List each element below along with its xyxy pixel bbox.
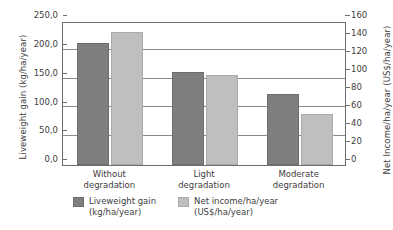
plot-area: 0,050,0100,0150,0200,0250,0 020406080100…	[62, 22, 346, 166]
y-tick-left-label: 50,0	[39, 125, 63, 135]
category-label-line2: degradation	[157, 180, 252, 191]
legend-swatch-icon	[178, 197, 189, 207]
y-tick-right-label: 40	[345, 118, 362, 128]
y-tick-right-label: 60	[345, 100, 362, 110]
category-label-line1: Moderate	[278, 169, 318, 179]
y-tick-left-label: 150,0	[34, 68, 63, 78]
legend-series-name: Net income/ha/year	[194, 196, 278, 206]
legend-swatch-icon	[73, 197, 84, 207]
category-label-line1: Light	[193, 169, 214, 179]
bar[interactable]	[267, 94, 299, 165]
legend-series-name: Liveweight gain	[89, 196, 156, 206]
legend-item[interactable]: Liveweight gain(kg/ha/year)	[73, 196, 156, 218]
y-tick-left-label: 200,0	[34, 39, 63, 49]
y-tick-right-label: 100	[345, 64, 367, 74]
legend-label: Net income/ha/year(US$/ha/year)	[194, 196, 278, 218]
y-tick-left-label: 250,0	[34, 10, 63, 20]
y-tick-right-label: 140	[345, 28, 367, 38]
chart-legend: Liveweight gain(kg/ha/year)Net income/ha…	[73, 196, 278, 218]
chart-figure: Liveweight gain (kg/ha/year) Net Income/…	[0, 0, 393, 230]
y-tick-right-label: 120	[345, 46, 367, 56]
bar-series-container	[63, 23, 345, 165]
bar[interactable]	[301, 114, 333, 165]
legend-label: Liveweight gain(kg/ha/year)	[89, 196, 156, 218]
category-label-line1: Without	[93, 169, 126, 179]
y-axis-left-title: Liveweight gain (kg/ha/year)	[18, 22, 28, 172]
category-label-line2: degradation	[62, 180, 157, 191]
legend-item[interactable]: Net income/ha/year(US$/ha/year)	[178, 196, 278, 218]
bar-group	[63, 23, 347, 165]
y-axis-right-title: Net Income/ha/year (US$/ha/year)	[382, 15, 392, 185]
y-tick-right-label: 20	[345, 136, 362, 146]
y-tick-left-label: 0,0	[44, 154, 63, 164]
legend-series-unit: (kg/ha/year)	[89, 207, 156, 218]
y-tick-right-label: 160	[345, 10, 367, 20]
y-tick-right-label: 80	[345, 82, 362, 92]
x-category-label: Withoutdegradation	[62, 169, 157, 191]
x-category-label: Lightdegradation	[157, 169, 252, 191]
category-label-line2: degradation	[251, 180, 346, 191]
legend-series-unit: (US$/ha/year)	[194, 207, 278, 218]
x-category-label: Moderatedegradation	[251, 169, 346, 191]
y-tick-left-label: 100,0	[34, 97, 63, 107]
